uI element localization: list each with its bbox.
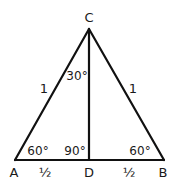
angle-label-adc: 90° <box>64 144 85 158</box>
vertex-label-d: D <box>84 165 94 180</box>
angle-label-acd: 30° <box>66 69 87 83</box>
side-label-cb: 1 <box>129 81 137 96</box>
side-label-ad: ½ <box>39 165 52 180</box>
triangle-diagram: C A D B 1 1 ½ ½ 30° 60° 90° 60° <box>0 0 176 186</box>
angle-label-b: 60° <box>129 144 150 158</box>
angle-label-a: 60° <box>27 144 48 158</box>
side-ac <box>15 29 89 160</box>
vertex-label-a: A <box>10 165 19 180</box>
side-label-db: ½ <box>123 165 136 180</box>
side-label-ac: 1 <box>40 81 48 96</box>
vertex-label-b: B <box>159 165 168 180</box>
side-cb <box>89 29 164 160</box>
vertex-label-c: C <box>84 10 93 25</box>
